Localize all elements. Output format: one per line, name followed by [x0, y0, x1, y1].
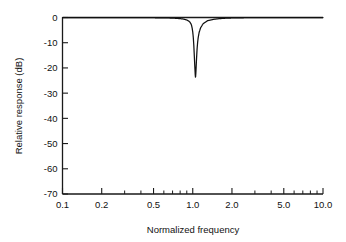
- x-tick-label: 0.1: [56, 199, 69, 210]
- x-axis-title: Normalized frequency: [147, 224, 240, 235]
- x-tick-label: 10.0: [314, 199, 333, 210]
- y-tick-label: -40: [44, 113, 58, 124]
- y-axis-tick-labels: 0-10-20-30-40-50-60-70: [44, 12, 58, 200]
- y-tick-label: 0: [52, 12, 57, 23]
- x-axis-tick-marks: [63, 188, 324, 194]
- y-tick-label: -30: [44, 88, 58, 99]
- x-tick-label: 0.2: [95, 199, 108, 210]
- x-axis-tick-labels: 0.10.20.51.02.05.010.0: [56, 199, 332, 210]
- y-axis-title: Relative response (dB): [13, 58, 24, 155]
- axis-frame-lines: [63, 18, 324, 195]
- x-tick-label: 2.0: [225, 199, 238, 210]
- y-tick-label: -20: [44, 62, 58, 73]
- y-tick-label: -60: [44, 163, 58, 174]
- chart-canvas: 0-10-20-30-40-50-60-70 0.10.20.51.02.05.…: [0, 0, 346, 242]
- x-tick-label: 5.0: [277, 199, 290, 210]
- y-tick-label: -50: [44, 138, 58, 149]
- response-curve: [63, 18, 324, 78]
- y-tick-label: -10: [44, 37, 58, 48]
- x-tick-label: 0.5: [147, 199, 160, 210]
- x-tick-label: 1.0: [186, 199, 199, 210]
- plot-frame: [63, 18, 324, 195]
- y-axis-tick-marks: [63, 18, 69, 195]
- notch-filter-response-figure: 0-10-20-30-40-50-60-70 0.10.20.51.02.05.…: [0, 0, 346, 242]
